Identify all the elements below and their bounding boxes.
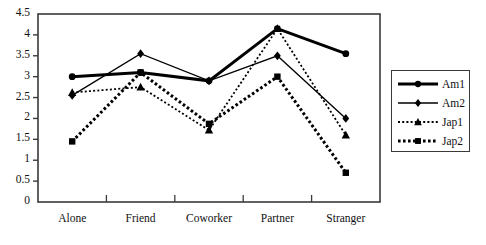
legend-item-am1[interactable]: Am1 [392, 74, 469, 93]
legend-item-jap1[interactable]: Jap1 [392, 112, 469, 131]
diamond-marker [415, 98, 421, 106]
y-axis-tick-label: 4.5 [16, 6, 30, 18]
circle-marker [69, 73, 76, 80]
y-axis-tick-label: 3 [24, 69, 30, 81]
square-marker [137, 69, 143, 75]
y-axis-tick-label: 4 [24, 27, 30, 39]
legend-line-sample [396, 115, 440, 129]
square-marker [274, 73, 280, 79]
y-axis-tick-label: 1 [24, 152, 30, 164]
x-axis-tick-label: Stranger [312, 212, 380, 224]
chart-legend: Am1Am2Jap1Jap2 [391, 70, 470, 152]
y-axis-tick-label: 3.5 [16, 48, 30, 60]
legend-label: Am1 [442, 78, 465, 90]
legend-label: Jap1 [442, 116, 463, 128]
x-axis-tick-label: Friend [106, 212, 174, 224]
y-axis-tick-label: 1.5 [16, 131, 30, 143]
y-axis-tick-label: 2.5 [16, 90, 30, 102]
x-axis-tick-label: Coworker [175, 212, 243, 224]
square-marker [415, 138, 421, 144]
legend-item-jap2[interactable]: Jap2 [392, 131, 469, 150]
legend-item-am2[interactable]: Am2 [392, 93, 469, 112]
legend-line-sample [396, 134, 440, 148]
legend-label: Jap2 [442, 135, 463, 147]
x-axis-tick-label: Alone [38, 212, 106, 224]
legend-line-sample [396, 77, 440, 91]
square-marker [343, 170, 349, 176]
square-marker [69, 138, 75, 144]
y-axis-tick-label: 2 [24, 110, 30, 122]
y-axis-tick-label: 0 [24, 194, 30, 206]
chart-figure: 00.511.522.533.544.5 AloneFriendCoworker… [0, 0, 486, 245]
y-axis-tick-label: 0.5 [16, 173, 30, 185]
circle-marker [415, 80, 421, 86]
legend-line-sample [396, 96, 440, 110]
legend-label: Am2 [442, 97, 465, 109]
square-marker [206, 121, 212, 127]
circle-marker [342, 50, 349, 57]
x-axis-tick-label: Partner [243, 212, 311, 224]
